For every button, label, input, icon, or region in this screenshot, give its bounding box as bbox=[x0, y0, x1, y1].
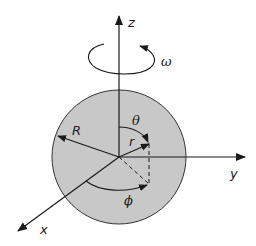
phi-label: ϕ bbox=[124, 193, 133, 208]
z-axis-label: z bbox=[127, 15, 136, 30]
theta-label: θ bbox=[132, 113, 140, 128]
rotation-arrow-icon bbox=[88, 44, 154, 74]
x-axis-label: x bbox=[39, 222, 48, 237]
sphere-diagram: z ω y x R r θ ϕ bbox=[0, 0, 256, 246]
radius-R-label: R bbox=[72, 123, 81, 138]
omega-label: ω bbox=[161, 54, 172, 69]
y-axis-label: y bbox=[229, 166, 238, 181]
